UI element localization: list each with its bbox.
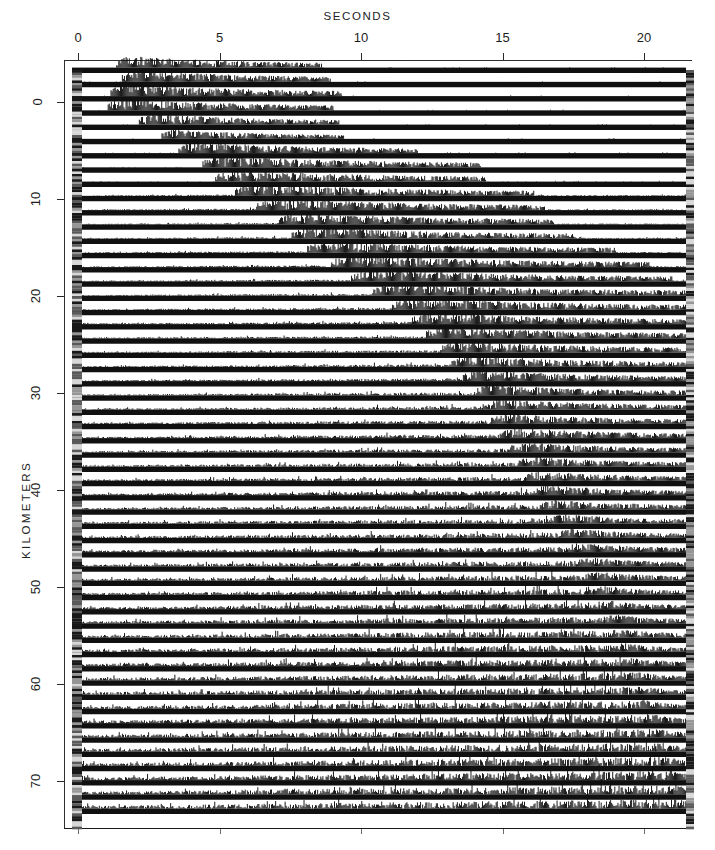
seismic-record-section-figure: SECONDS KILOMETERS 05101520 010203040506… (0, 0, 715, 850)
seismic-trace-canvas (0, 0, 715, 850)
